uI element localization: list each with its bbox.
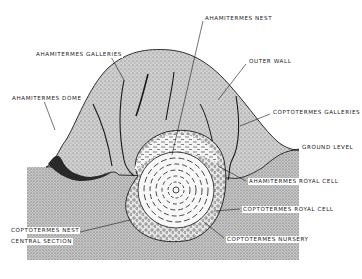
label-coptotermes-nest: COPTOTERMES NEST	[10, 227, 80, 234]
label-ahamitermes-royal-cell: AHAMITERMES ROYAL CELL	[248, 178, 339, 185]
label-ahamitermes-nest: AHAMITERMES NEST	[204, 15, 273, 22]
label-coptotermes-galleries: COPTOTERMES GALLERIES	[272, 109, 361, 116]
coptotermes-royal-cell	[138, 152, 214, 228]
label-coptotermes-nursery: COPTOTERMES NURSERY	[226, 236, 310, 243]
label-ahamitermes-dome: AHAMITERMES DOME	[11, 95, 83, 102]
label-central-section: CENTRAL SECTION	[10, 238, 73, 245]
label-outer-wall: OUTER WALL	[248, 58, 292, 65]
label-ground-level: GROUND LEVEL	[301, 144, 354, 151]
label-ahamitermes-galleries: AHAMITERMES GALLERIES	[35, 51, 123, 58]
label-coptotermes-royal-cell: COPTOTERMES ROYAL CELL	[242, 206, 335, 213]
